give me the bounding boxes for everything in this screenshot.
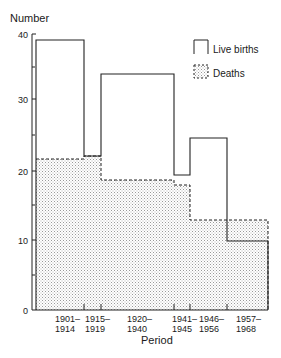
y-tick-10: 10 [18, 236, 28, 246]
x-label-1940: 1940 [127, 324, 147, 334]
y-tick-20: 20 [18, 167, 28, 177]
x-tick-labels: 1901– 1914 1915– 1919 1920– 1940 1941– 1… [55, 314, 261, 334]
deaths-area [36, 156, 268, 310]
x-label-1946: 1946– [199, 314, 224, 324]
chart-canvas: Number 40 30 20 10 0 1901– 1914 1915– 19… [0, 0, 281, 358]
y-axis-title: Number [10, 12, 49, 24]
x-label-1920: 1920– [127, 314, 152, 324]
legend: Live births Deaths [194, 40, 259, 79]
legend-deaths-swatch [194, 65, 208, 78]
x-label-1957: 1957– [236, 314, 261, 324]
x-label-1945: 1945 [172, 324, 192, 334]
x-label-1968: 1968 [236, 324, 256, 334]
x-label-1941: 1941– [172, 314, 197, 324]
x-label-1956: 1956 [199, 324, 219, 334]
y-tick-30: 30 [18, 95, 28, 105]
legend-live-births-swatch [194, 40, 208, 54]
x-label-1901: 1901– [55, 314, 80, 324]
legend-live-births-label: Live births [213, 44, 259, 55]
y-tick-0: 0 [23, 306, 28, 316]
legend-deaths-label: Deaths [213, 68, 245, 79]
x-label-1919: 1919 [85, 324, 105, 334]
y-tick-40: 40 [18, 30, 28, 40]
x-label-1914: 1914 [55, 324, 75, 334]
x-label-1915: 1915– [85, 314, 110, 324]
x-axis-title: Period [141, 334, 173, 346]
